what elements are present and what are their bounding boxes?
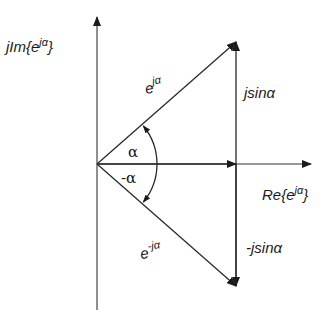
negative-phasor-label: e-jα	[138, 238, 162, 262]
negative-imag-label: -jsinα	[246, 239, 283, 256]
negative-angle-label: -α	[121, 169, 136, 187]
positive-angle-label: α	[128, 143, 138, 161]
imaginary-axis-label: jIm{ejα}	[4, 36, 53, 55]
negative-phasor-vector	[97, 164, 236, 286]
positive-angle-arc	[143, 126, 157, 164]
positive-phasor-label: ejα	[143, 73, 164, 97]
negative-angle-arc	[143, 164, 157, 202]
positive-imag-label: jsinα	[242, 84, 276, 101]
positive-phasor-vector	[97, 42, 236, 164]
real-axis-label: Re{ejα}	[262, 184, 308, 203]
phasor-diagram: jIm{ejα} Re{ejα} ejα e-jα jsinα -jsinα α…	[0, 0, 336, 321]
